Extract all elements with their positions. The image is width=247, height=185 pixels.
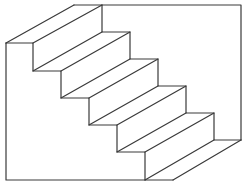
depth-edge: [173, 140, 241, 180]
back-wall-outline: [102, 5, 241, 140]
staircase-lines: [6, 5, 241, 180]
staircase-illusion: [0, 0, 247, 185]
front-stair-profile: [6, 43, 173, 180]
left-wall-outline: [6, 43, 145, 180]
depth-edge: [6, 5, 74, 43]
